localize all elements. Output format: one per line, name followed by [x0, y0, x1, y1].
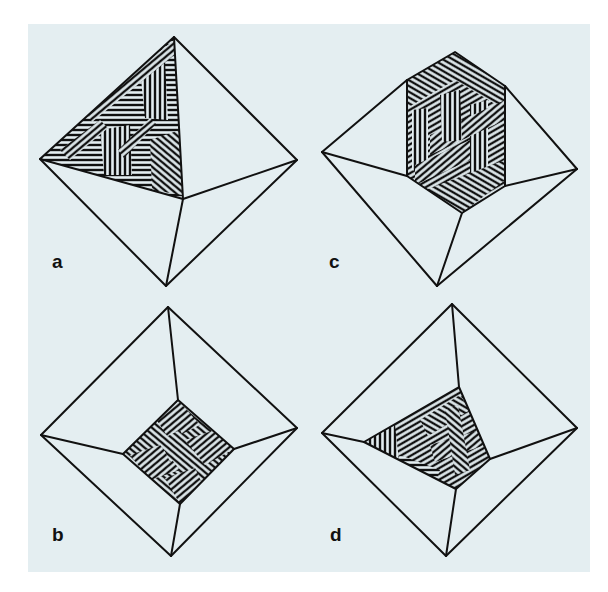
panel-label-c: c: [329, 252, 340, 271]
panel-label-a: a: [52, 252, 63, 271]
crystal-figure: [0, 0, 608, 592]
octahedron-d: [322, 304, 577, 556]
octahedron-a: [30, 30, 297, 286]
octahedron-b: [41, 307, 297, 556]
panel-label-d: d: [330, 525, 342, 544]
octahedron-c: [322, 45, 577, 286]
panel-label-b: b: [52, 525, 64, 544]
